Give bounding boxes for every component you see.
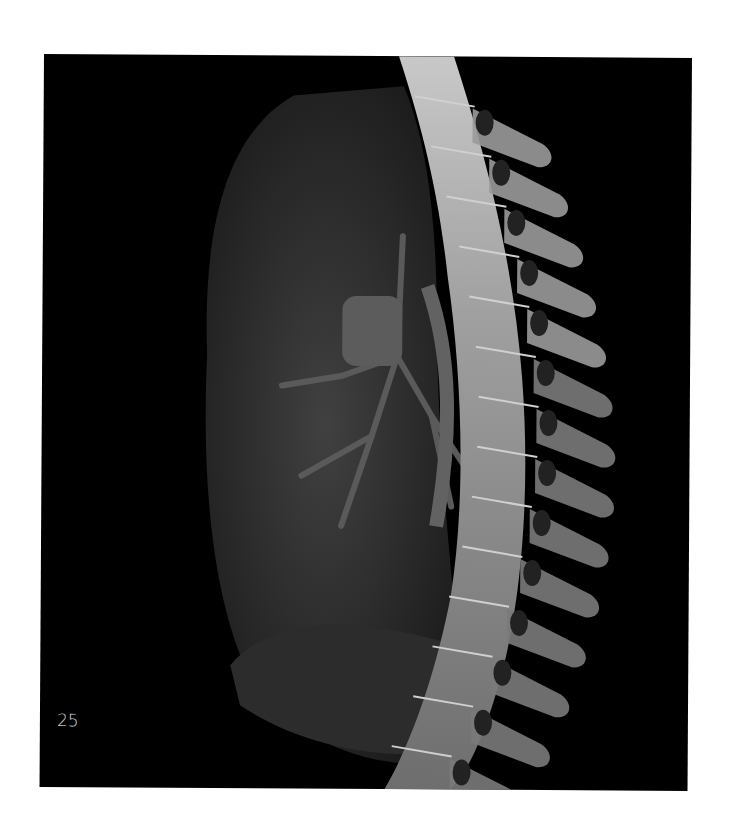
xray-image-panel: 25: [40, 54, 692, 791]
heart-shadow: [342, 296, 402, 366]
neural-foramen: [492, 160, 510, 186]
neural-foramen: [474, 710, 492, 736]
neural-foramen: [523, 560, 541, 586]
xray-illustration: [40, 54, 692, 791]
neural-foramen: [530, 310, 548, 336]
neural-foramen: [533, 510, 551, 536]
neural-foramen: [452, 760, 470, 786]
neural-foramen: [510, 610, 528, 636]
neural-foramen: [493, 660, 511, 686]
neural-foramen: [520, 260, 538, 286]
page-number-label: 25: [57, 710, 79, 730]
neural-foramen: [538, 460, 556, 486]
neural-foramen: [507, 210, 525, 236]
neural-foramen: [539, 410, 557, 436]
neural-foramen: [476, 110, 494, 136]
neural-foramen: [537, 360, 555, 386]
